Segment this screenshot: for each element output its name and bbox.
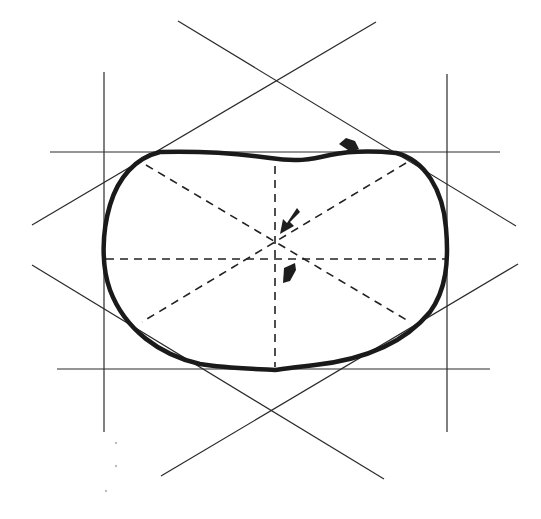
top-indent-arrow-icon — [339, 138, 359, 152]
bean-construction-diagram — [0, 0, 541, 519]
center-lower-arrow-icon — [283, 263, 296, 283]
paper-specks — [105, 442, 117, 492]
tangent-line-bottom-right — [161, 264, 518, 476]
diagram-canvas — [0, 0, 541, 519]
tangent-line-bottom-left — [32, 265, 384, 479]
dashed-axes — [106, 163, 445, 367]
diagonal-axis-down — [146, 165, 410, 322]
tangent-line-top-left — [32, 22, 376, 225]
diagonal-axis-up — [142, 163, 406, 322]
center-upper-arrow-icon — [280, 208, 300, 234]
tangent-line-top-right — [178, 21, 516, 226]
